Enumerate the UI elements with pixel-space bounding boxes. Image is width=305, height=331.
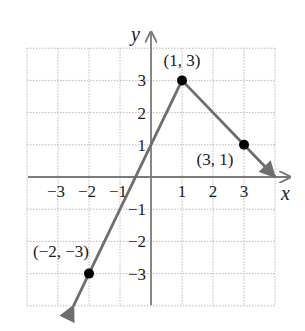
x-tick-label: 3 bbox=[240, 182, 249, 201]
y-tick-label: 3 bbox=[138, 71, 147, 90]
x-tick-label: −2 bbox=[78, 182, 96, 201]
coordinate-plane: x y −3−2−1123 321−1−2−3 (1, 3)(3, 1)(−2,… bbox=[0, 0, 305, 331]
point-marker bbox=[239, 140, 249, 150]
point-label: (−2, −3) bbox=[33, 242, 89, 261]
x-axis-label: x bbox=[280, 182, 290, 204]
x-tick-labels: −3−2−1123 bbox=[47, 182, 248, 201]
point-label: (1, 3) bbox=[164, 51, 201, 70]
x-tick-label: 2 bbox=[209, 182, 218, 201]
x-tick-label: −3 bbox=[47, 182, 65, 201]
point-label: (3, 1) bbox=[197, 150, 234, 169]
x-tick-label: 1 bbox=[178, 182, 187, 201]
point-marker bbox=[177, 75, 187, 85]
point-marker bbox=[84, 269, 94, 279]
y-tick-label: −3 bbox=[128, 265, 146, 284]
y-tick-label: −1 bbox=[128, 200, 146, 219]
y-tick-label: −2 bbox=[128, 232, 146, 251]
y-tick-label: 1 bbox=[138, 136, 147, 155]
y-axis-label: y bbox=[129, 23, 140, 46]
y-tick-label: 2 bbox=[138, 104, 147, 123]
